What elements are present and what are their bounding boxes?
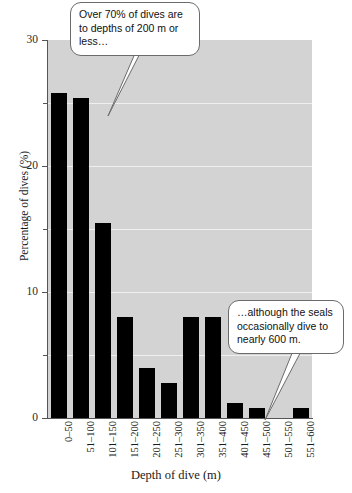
x-axis-tick-label: 51–100	[85, 421, 96, 453]
x-axis-tick-label: 451–500	[261, 421, 272, 458]
bar	[139, 368, 155, 418]
bar	[117, 317, 133, 418]
x-axis-tick-label: 0–50	[63, 421, 74, 442]
y-axis-tick-minor	[43, 103, 47, 104]
y-axis-line	[47, 40, 48, 419]
y-axis-tick-label: 30	[12, 34, 38, 45]
y-axis-tick-minor	[43, 229, 47, 230]
bar-slot	[205, 40, 221, 418]
y-axis-tick-major	[42, 166, 47, 167]
bar	[51, 93, 67, 418]
bar	[73, 98, 89, 418]
y-axis-tick-major	[42, 292, 47, 293]
bar	[95, 223, 111, 418]
bar-slot	[227, 40, 243, 418]
x-axis-tick-label: 501–550	[283, 421, 294, 458]
x-axis-tick-label: 151–200	[129, 421, 140, 458]
x-axis-title: Depth of dive (m)	[0, 468, 352, 483]
bar	[205, 317, 221, 418]
bar-slot	[161, 40, 177, 418]
y-axis-tick-minor	[43, 355, 47, 356]
y-axis-tick-major	[42, 418, 47, 419]
x-axis-tick-label: 251–300	[173, 421, 184, 458]
x-axis-tick-label: 201–250	[151, 421, 162, 458]
bar	[227, 403, 243, 418]
x-axis-tick-label: 401–450	[239, 421, 250, 458]
y-axis-tick-label: 0	[12, 412, 38, 423]
x-axis-tick-label: 301–350	[195, 421, 206, 458]
x-axis-tick-labels: 0–5051–100101–150151–200201–250251–30030…	[48, 421, 312, 469]
x-axis-tick-label: 351–400	[217, 421, 228, 458]
bar	[183, 317, 199, 418]
bar-slot	[73, 40, 89, 418]
annotation-callout-2: …although the seals occasionally dive to…	[228, 300, 344, 354]
y-axis-tick-major	[42, 40, 47, 41]
annotation-callout-1: Over 70% of dives are to depths of 200 m…	[70, 2, 200, 56]
y-axis-title: Percentage of dives (%)	[18, 106, 30, 306]
x-axis-tick-label: 101–150	[107, 421, 118, 458]
bar-slot	[183, 40, 199, 418]
figure-histogram-dive-depth: 0102030 Percentage of dives (%) 0–5051–1…	[0, 0, 352, 493]
bar	[161, 383, 177, 418]
bar-slot	[51, 40, 67, 418]
x-axis-tick-label: 551–600	[305, 421, 316, 458]
